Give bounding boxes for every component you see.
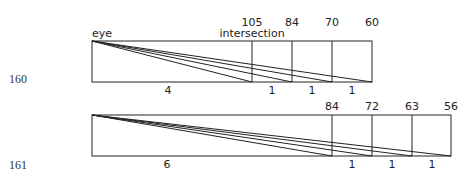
bottom-label: 1 — [349, 158, 356, 171]
sight-line — [92, 41, 292, 82]
sight-line — [92, 41, 332, 82]
figure-number: 160 — [9, 72, 27, 86]
top-label: 70 — [325, 16, 339, 29]
top-label: 84 — [285, 16, 299, 29]
figure-number: 161 — [9, 158, 27, 172]
bottom-label: 1 — [349, 84, 356, 97]
bottom-label: 1 — [389, 158, 396, 171]
figure-161 — [92, 115, 451, 156]
figure-160 — [92, 41, 372, 82]
top-label: 60 — [365, 16, 379, 29]
sight-line — [92, 115, 451, 156]
top-label: 72 — [365, 100, 379, 113]
sight-line — [92, 115, 372, 156]
sight-line — [92, 115, 412, 156]
sight-line — [92, 41, 252, 82]
eye-label: eye — [92, 27, 112, 40]
top-label: 56 — [444, 100, 458, 113]
top-label: 63 — [405, 100, 419, 113]
sight-line — [92, 41, 372, 82]
perspective-diagrams: eye intersection 105 84 70 60 4 1 1 1 16… — [0, 0, 472, 184]
top-label: 105 — [242, 16, 263, 29]
bottom-label: 1 — [269, 84, 276, 97]
bottom-label: 4 — [165, 84, 172, 97]
bottom-label: 6 — [164, 158, 171, 171]
bottom-label: 1 — [429, 158, 436, 171]
top-label: 84 — [325, 100, 339, 113]
bottom-label: 1 — [309, 84, 316, 97]
sight-line — [92, 115, 332, 156]
